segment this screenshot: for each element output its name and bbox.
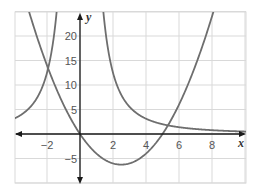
x-tick-label: 4 bbox=[143, 139, 149, 151]
x-axis-left-arrow-icon bbox=[15, 131, 22, 137]
y-tick-label: 5 bbox=[71, 104, 77, 116]
y-tick-label: 15 bbox=[65, 55, 77, 67]
chart: −224682015105−5 y x bbox=[0, 0, 257, 193]
grid bbox=[15, 12, 246, 184]
x-tick-label: 8 bbox=[209, 139, 215, 151]
y-tick-label: −5 bbox=[64, 153, 77, 165]
x-tick-label: −2 bbox=[41, 139, 54, 151]
x-tick-label: 2 bbox=[110, 139, 116, 151]
tick-labels: −224682015105−5 bbox=[41, 30, 215, 165]
y-axis-label: y bbox=[84, 10, 92, 24]
y-tick-label: 10 bbox=[65, 79, 77, 91]
y-axis-up-arrow-icon bbox=[77, 13, 83, 20]
y-tick-label: 20 bbox=[65, 30, 77, 42]
grid-frame bbox=[15, 12, 246, 183]
x-tick-label: 6 bbox=[176, 139, 182, 151]
x-axis-label: x bbox=[237, 136, 244, 150]
